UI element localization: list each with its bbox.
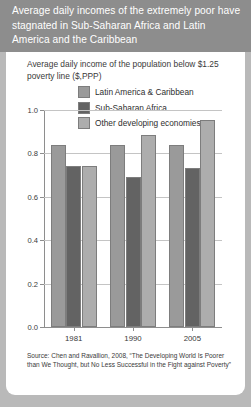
y-tick-label: 1.0: [27, 106, 38, 115]
x-tick-mark: [133, 328, 134, 331]
bar-1990-series-2[interactable]: [141, 135, 156, 327]
legend-label: Latin America & Caribbean: [95, 87, 194, 97]
bar-1981-series-2[interactable]: [82, 166, 97, 327]
x-tick-label: 1981: [65, 334, 82, 343]
figure-title: Average daily incomes of the extremely p…: [12, 4, 241, 48]
bar-group-2005: [169, 110, 215, 327]
legend-swatch-icon: [78, 86, 90, 98]
bar-1990-series-1[interactable]: [126, 177, 141, 327]
bar-group-1981: [51, 110, 97, 327]
y-tick-mark: [40, 110, 44, 111]
y-tick-label: 0.4: [27, 236, 38, 245]
bar-1981-series-1[interactable]: [66, 166, 81, 327]
y-axis-line: [44, 110, 45, 328]
y-tick-mark: [40, 197, 44, 198]
y-tick-mark: [40, 153, 44, 154]
bar-1990-series-0[interactable]: [110, 145, 125, 327]
plot-area: 0.00.20.40.60.81.0198119902005: [44, 110, 222, 328]
y-tick-mark: [40, 327, 44, 328]
bar-2005-series-0[interactable]: [169, 145, 184, 327]
x-tick-label: 1990: [124, 334, 141, 343]
y-tick-label: 0.8: [27, 149, 38, 158]
y-tick-mark: [40, 284, 44, 285]
chart-figure: Average daily incomes of the extremely p…: [0, 0, 251, 407]
figure-header: Average daily incomes of the extremely p…: [0, 0, 251, 52]
y-tick-label: 0.2: [27, 279, 38, 288]
x-tick-mark: [192, 328, 193, 331]
y-tick-label: 0.6: [27, 192, 38, 201]
x-tick-label: 2005: [184, 334, 201, 343]
source-note: Source: Chen and Ravallion, 2008, “The D…: [27, 352, 235, 369]
y-tick-label: 0.0: [27, 323, 38, 332]
bar-2005-series-1[interactable]: [185, 168, 200, 327]
chart-subtitle: Average daily income of the population b…: [27, 59, 232, 82]
chart-card: Average daily income of the population b…: [6, 52, 245, 395]
x-tick-mark: [74, 328, 75, 331]
legend-item-0[interactable]: Latin America & Caribbean: [78, 85, 238, 100]
bar-1981-series-0[interactable]: [51, 145, 66, 327]
bar-group-1990: [110, 110, 156, 327]
bar-2005-series-2[interactable]: [200, 120, 215, 327]
y-tick-mark: [40, 240, 44, 241]
